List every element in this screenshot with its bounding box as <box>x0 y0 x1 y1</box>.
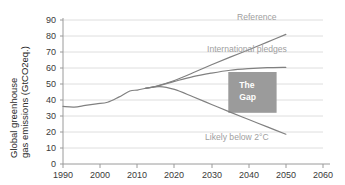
emissions-gap-chart: 90 80 70 60 50 40 30 20 10 0 1990 2000 2… <box>0 0 345 185</box>
series-label-likely-below-2c: Likely below 2°C <box>205 132 269 142</box>
chart-canvas: 90 80 70 60 50 40 30 20 10 0 1990 2000 2… <box>0 0 345 185</box>
series-label-reference: Reference <box>237 12 277 22</box>
y-tick-label-10: 10 <box>46 143 56 153</box>
x-axis: 1990 2000 2010 2020 2030 2040 2050 2060 <box>53 164 333 180</box>
gridlines <box>63 20 323 148</box>
x-tick-label-2010: 2010 <box>127 170 147 180</box>
y-tick-label-60: 60 <box>46 63 56 73</box>
y-tick-label-20: 20 <box>46 127 56 137</box>
x-tick-label-2050: 2050 <box>276 170 296 180</box>
y-tick-label-50: 50 <box>46 79 56 89</box>
the-gap-label-line1: The <box>239 80 254 90</box>
x-tick-label-1990: 1990 <box>53 170 73 180</box>
y-axis-title-line1: Global greenhouse <box>8 78 19 158</box>
x-tick-label-2000: 2000 <box>90 170 110 180</box>
x-tick-label-2040: 2040 <box>239 170 259 180</box>
series-line-historical <box>63 88 145 107</box>
y-tick-label-90: 90 <box>46 15 56 25</box>
y-tick-label-0: 0 <box>51 159 56 169</box>
y-axis-title: Global greenhouse gas emissions (GtCO2eq… <box>8 46 30 158</box>
the-gap-label-line2: Gap <box>239 92 256 102</box>
y-axis-title-line2: gas emissions (GtCO2eq.) <box>19 46 30 158</box>
y-tick-label-70: 70 <box>46 47 56 57</box>
y-tick-label-40: 40 <box>46 95 56 105</box>
series-label-international-pledges: International pledges <box>207 44 287 54</box>
y-tick-label-80: 80 <box>46 31 56 41</box>
y-tick-label-30: 30 <box>46 111 56 121</box>
x-tick-label-2020: 2020 <box>164 170 184 180</box>
the-gap-annotation: The Gap <box>228 72 276 113</box>
x-tick-label-2030: 2030 <box>202 170 222 180</box>
x-tick-label-2060: 2060 <box>313 170 333 180</box>
y-axis: 90 80 70 60 50 40 30 20 10 0 <box>46 15 63 169</box>
